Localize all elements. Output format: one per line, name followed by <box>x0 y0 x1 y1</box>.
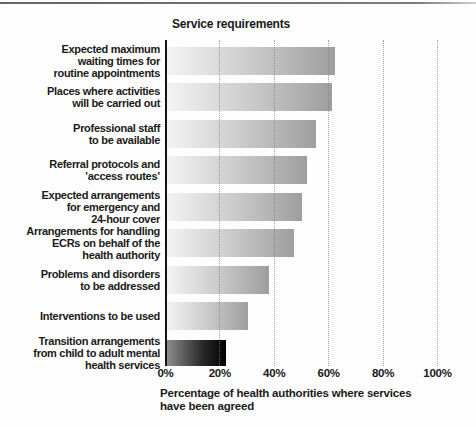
category-label: Problems and disorders to be addressed <box>0 268 160 292</box>
category-label: Professional staff to be available <box>0 122 160 146</box>
chart-row: Arrangements for handling ECRs on behalf… <box>0 225 476 262</box>
figure: Service requirements Expected maximum wa… <box>0 0 476 428</box>
chart-row: Expected arrangements for emergency and … <box>0 188 476 225</box>
chart-row: Places where activities will be carried … <box>0 79 476 116</box>
bar <box>166 266 269 294</box>
category-label: Transition arrangements from child to ad… <box>0 335 160 371</box>
gridline <box>437 40 438 366</box>
category-label: Referral protocols and ’access routes’ <box>0 158 160 182</box>
category-label: Arrangements for handling ECRs on behalf… <box>0 225 160 261</box>
top-rule <box>0 2 476 4</box>
gridline <box>328 40 329 366</box>
x-axis-label: Percentage of health authorities where s… <box>160 387 440 413</box>
category-label: Expected arrangements for emergency and … <box>0 189 160 225</box>
chart-row: Interventions to be used <box>0 298 476 335</box>
chart-title: Service requirements <box>0 17 462 31</box>
bar <box>166 83 332 111</box>
chart-row: Transition arrangements from child to ad… <box>0 334 476 371</box>
gridline <box>219 40 220 366</box>
bar <box>166 193 302 221</box>
chart-row: Professional staff to be available <box>0 115 476 152</box>
y-axis-line <box>165 40 167 366</box>
chart-row: Expected maximum waiting times for routi… <box>0 42 476 79</box>
category-label: Expected maximum waiting times for routi… <box>0 43 160 79</box>
bar <box>166 302 248 330</box>
bar <box>166 120 316 148</box>
bar <box>166 340 226 366</box>
chart-row: Referral protocols and ’access routes’ <box>0 152 476 189</box>
gridline <box>383 40 384 366</box>
gridline <box>274 40 275 366</box>
chart-row: Problems and disorders to be addressed <box>0 261 476 298</box>
category-label: Interventions to be used <box>0 310 160 322</box>
category-label: Places where activities will be carried … <box>0 85 160 109</box>
bar <box>166 47 335 75</box>
bar <box>166 156 307 184</box>
